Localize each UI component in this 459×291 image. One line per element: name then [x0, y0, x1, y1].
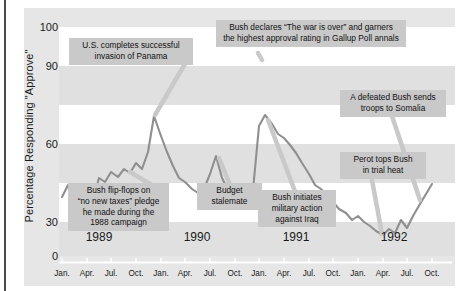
y-tick-100: 100 — [28, 21, 58, 33]
callout-budget-line-1: Budget — [201, 185, 258, 196]
callout-iraq-action: Bush initiates military action against I… — [258, 190, 336, 227]
callout-budget-stalemate: Budget stalemate — [197, 183, 262, 210]
x-tick-1992-oct: Oct. — [417, 269, 447, 278]
callout-panama: U.S. completes successful invasion of Pa… — [69, 38, 193, 65]
approval-rating-chart-figure: Percentage Responding "Approve" 100 90 6… — [0, 0, 459, 291]
year-label-1992: 1992 — [364, 230, 424, 244]
callout-somalia-line-2: troops to Somalia — [344, 103, 442, 114]
callout-iraq-line-2: military action — [262, 203, 332, 214]
callout-perot-line-1: Perot tops Bush — [344, 154, 422, 165]
callout-iraq-line-1: Bush initiates — [262, 192, 332, 203]
callout-iraq-line-3: against Iraq — [262, 214, 332, 225]
y-tick-90: 90 — [28, 60, 58, 72]
callout-taxes-line-1: Bush flip-flops on — [72, 185, 165, 196]
year-label-1990: 1990 — [167, 230, 227, 244]
callout-taxes-line-2: “no new taxes” pledge — [72, 196, 165, 207]
callout-taxes-line-4: 1988 campaign — [72, 217, 165, 228]
year-label-1989: 1989 — [69, 230, 129, 244]
callout-budget-line-2: stalemate — [201, 196, 258, 207]
callout-war-over-line-1: Bush declares “The war is over” and garn… — [220, 22, 402, 33]
year-label-1991: 1991 — [266, 230, 326, 244]
callout-war-over: Bush declares “The war is over” and garn… — [216, 20, 406, 47]
callout-panama-line-1: U.S. completes successful — [73, 40, 189, 51]
y-tick-0: 0 — [28, 250, 58, 262]
callout-taxes-line-3: he made during the — [72, 207, 165, 218]
callout-perot: Perot tops Bush in trial heat — [340, 152, 426, 179]
callout-panama-line-2: invasion of Panama — [73, 51, 189, 62]
callout-somalia: A defeated Bush sends troops to Somalia — [340, 90, 446, 117]
callout-somalia-line-1: A defeated Bush sends — [344, 92, 442, 103]
y-tick-60: 60 — [28, 138, 58, 150]
callout-no-new-taxes: Bush flip-flops on “no new taxes” pledge… — [68, 183, 169, 231]
callout-perot-line-2: in trial heat — [344, 165, 422, 176]
y-tick-30: 30 — [28, 216, 58, 228]
callout-war-over-line-2: the highest approval rating in Gallup Po… — [220, 33, 402, 44]
